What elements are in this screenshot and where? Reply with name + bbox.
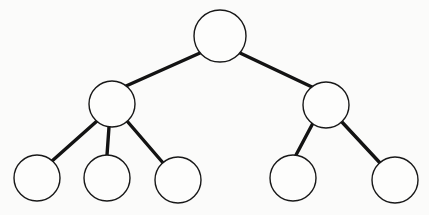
tree-diagram-svg [0, 0, 429, 215]
tree-diagram-canvas [0, 0, 429, 215]
node-layer [14, 10, 418, 203]
tree-edge-l1-l1c3 [127, 121, 164, 164]
tree-node-root[interactable] [194, 10, 246, 62]
tree-edge-l1-l1c1 [52, 121, 97, 161]
tree-node-circle-r1c1[interactable] [270, 155, 316, 201]
tree-edge-root-r1 [240, 53, 312, 87]
tree-node-r1[interactable] [303, 82, 349, 128]
tree-node-circle-l1c3[interactable] [155, 157, 201, 203]
tree-node-circle-l1c2[interactable] [84, 155, 130, 201]
tree-edge-root-l1 [126, 53, 200, 86]
tree-node-l1c3[interactable] [155, 157, 201, 203]
tree-node-circle-r1c2[interactable] [372, 157, 418, 203]
tree-node-circle-l1[interactable] [89, 81, 135, 127]
tree-node-l1c2[interactable] [84, 155, 130, 201]
tree-node-circle-root[interactable] [194, 10, 246, 62]
tree-node-r1c1[interactable] [270, 155, 316, 201]
tree-node-l1[interactable] [89, 81, 135, 127]
tree-node-r1c2[interactable] [372, 157, 418, 203]
tree-node-circle-r1[interactable] [303, 82, 349, 128]
tree-edge-r1-r1c2 [341, 121, 381, 164]
tree-node-circle-l1c1[interactable] [14, 155, 60, 201]
tree-edge-l1-l1c2 [107, 127, 109, 155]
tree-node-l1c1[interactable] [14, 155, 60, 201]
tree-edge-r1-r1c1 [296, 123, 313, 155]
